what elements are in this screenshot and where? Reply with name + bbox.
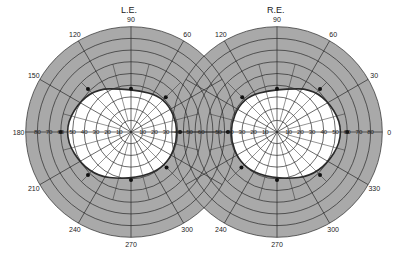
right-eye-label: R.E. [267, 5, 285, 15]
scale-tick: 10 [262, 129, 269, 135]
isopter-point [275, 87, 279, 91]
meridian-label: 60 [183, 31, 191, 38]
scale-tick: 60 [344, 129, 351, 135]
scale-tick: 40 [320, 129, 327, 135]
scale-tick: 30 [309, 129, 316, 135]
visual-field-chart: 9060120150180210240270300807060504030201… [0, 0, 408, 257]
scale-tick: 50 [215, 129, 222, 135]
meridian-label: 0 [387, 129, 391, 136]
scale-tick: 50 [69, 129, 76, 135]
scale-tick: 10 [139, 129, 146, 135]
scale-tick: 70 [46, 129, 53, 135]
isopter-point [165, 166, 169, 170]
isopter-point [240, 95, 244, 99]
meridian-label: 60 [329, 31, 337, 38]
perimetry-diagram: 9060120150180210240270300807060504030201… [0, 0, 408, 257]
isopter-point [164, 95, 168, 99]
meridian-label: 240 [69, 226, 81, 233]
meridian-label: 120 [215, 31, 227, 38]
meridian-label: 330 [368, 185, 380, 192]
isopter-point [86, 173, 90, 177]
isopter-point [129, 178, 133, 182]
scale-tick: 20 [151, 129, 158, 135]
scale-tick: 20 [297, 129, 304, 135]
meridian-label: 90 [273, 16, 281, 23]
meridian-label: 90 [127, 16, 135, 23]
scale-tick: 30 [93, 129, 100, 135]
left-eye-label: L.E. [121, 5, 137, 15]
meridian-label: 270 [271, 241, 283, 248]
meridian-label: 270 [125, 241, 137, 248]
meridian-label: 300 [327, 226, 339, 233]
scale-tick: 10 [285, 129, 292, 135]
scale-tick: 30 [163, 129, 170, 135]
isopter-point [239, 166, 243, 170]
scale-tick: 40 [81, 129, 88, 135]
isopter-point [86, 87, 90, 91]
scale-tick: 60 [57, 129, 64, 135]
scale-tick: 20 [250, 129, 257, 135]
scale-tick: 80 [367, 129, 374, 135]
meridian-label: 30 [370, 72, 378, 79]
scale-tick: 70 [356, 129, 363, 135]
meridian-label: 240 [215, 226, 227, 233]
meridian-label: 150 [28, 72, 40, 79]
scale-tick: 80 [34, 129, 41, 135]
isopter-point [318, 173, 322, 177]
isopter-point [129, 87, 133, 91]
meridian-label: 300 [181, 226, 193, 233]
isopter-point [275, 178, 279, 182]
meridian-label: 120 [69, 31, 81, 38]
meridian-label: 180 [13, 129, 25, 136]
scale-tick: 20 [104, 129, 111, 135]
scale-tick: 50 [332, 129, 339, 135]
scale-tick: 10 [116, 129, 123, 135]
meridian-label: 210 [28, 185, 40, 192]
isopter-point [318, 87, 322, 91]
scale-tick: 30 [239, 129, 246, 135]
scale-tick: 40 [227, 129, 234, 135]
